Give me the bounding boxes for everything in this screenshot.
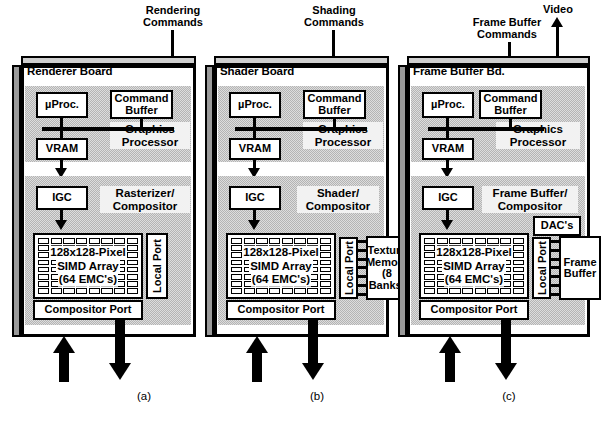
simd-cell	[282, 245, 293, 251]
simd-cell	[307, 260, 318, 266]
simd-cell	[500, 260, 511, 266]
simd-cell	[127, 238, 138, 244]
simd-cell	[513, 281, 524, 287]
panel-a-block-compositor-port: Compositor Port	[33, 300, 143, 320]
simd-cell	[256, 281, 267, 287]
simd-cell	[127, 267, 138, 273]
board-top-face	[407, 56, 590, 65]
simd-cell	[63, 238, 74, 244]
simd-cell	[231, 281, 242, 287]
simd-cell	[269, 238, 280, 244]
simd-cell	[449, 252, 460, 258]
simd-cell	[282, 252, 293, 258]
simd-cell	[500, 274, 511, 280]
board-side-face	[205, 65, 214, 337]
simd-cell	[500, 252, 511, 258]
simd-cell	[269, 288, 280, 294]
panel-c-block-uproc: µProc.	[422, 92, 474, 118]
panel-b-simd-arrowhead-icon	[248, 220, 260, 230]
simd-cell	[449, 238, 460, 244]
simd-cell	[500, 238, 511, 244]
simd-cell	[269, 260, 280, 266]
simd-cell	[449, 267, 460, 273]
simd-cell	[89, 238, 100, 244]
simd-cell	[513, 238, 524, 244]
simd-cell	[127, 245, 138, 251]
simd-cell	[282, 274, 293, 280]
simd-cell	[294, 260, 305, 266]
simd-cell	[424, 267, 435, 273]
panel-a-simd-arrowhead-icon	[55, 220, 67, 230]
simd-cell	[114, 274, 125, 280]
panel-b-block-uproc: µProc.	[229, 92, 281, 118]
simd-cell	[307, 274, 318, 280]
simd-cell	[76, 274, 87, 280]
simd-cell	[462, 288, 473, 294]
simd-cell	[424, 238, 435, 244]
simd-cell	[114, 288, 125, 294]
simd-cell	[256, 274, 267, 280]
simd-cell	[76, 288, 87, 294]
panel-c-video-label: Video	[528, 3, 588, 15]
simd-cell	[462, 252, 473, 258]
simd-cell	[294, 245, 305, 251]
panel-a-input-label: Rendering Commands	[127, 4, 219, 28]
panel-c-compositor-out-arrow-icon	[494, 318, 518, 382]
simd-cell	[437, 281, 448, 287]
simd-cell	[231, 252, 242, 258]
simd-cell	[513, 252, 524, 258]
simd-cell	[424, 274, 435, 280]
simd-cell	[475, 245, 486, 251]
simd-cell	[38, 274, 49, 280]
simd-cell	[462, 274, 473, 280]
simd-cell	[487, 245, 498, 251]
simd-cell	[500, 281, 511, 287]
simd-cell	[63, 260, 74, 266]
panel-b-caption: (b)	[297, 390, 337, 402]
panel-c-simd-arrowhead-icon	[441, 220, 453, 230]
simd-cell	[475, 267, 486, 273]
simd-cell	[231, 245, 242, 251]
simd-cell	[101, 260, 112, 266]
simd-cell	[51, 260, 62, 266]
simd-cell	[231, 238, 242, 244]
simd-cell	[63, 281, 74, 287]
panel-a-block-command-buffer: Command Buffer	[110, 90, 173, 119]
simd-cell	[76, 252, 87, 258]
simd-cell	[76, 245, 87, 251]
panel-a-board-title: Renderer Board	[27, 65, 113, 77]
simd-cell	[51, 288, 62, 294]
board-top-face	[214, 56, 389, 65]
board-top-face	[21, 56, 196, 65]
simd-cell	[294, 267, 305, 273]
simd-cell	[244, 260, 255, 266]
simd-cell	[462, 260, 473, 266]
panel-c-block-igc: IGC	[422, 186, 474, 210]
simd-cell	[51, 245, 62, 251]
simd-cell	[38, 288, 49, 294]
simd-cell	[307, 252, 318, 258]
simd-cell	[500, 267, 511, 273]
simd-cell	[244, 245, 255, 251]
simd-cell	[424, 260, 435, 266]
simd-cell	[89, 267, 100, 273]
simd-cell	[487, 267, 498, 273]
panel-c-block-command-buffer: Command Buffer	[479, 90, 542, 119]
simd-cell	[320, 260, 331, 266]
simd-cell	[231, 288, 242, 294]
simd-cell	[487, 238, 498, 244]
panel-c-compositor-in-arrow-icon	[438, 336, 462, 382]
simd-cell	[38, 252, 49, 258]
simd-cell	[487, 288, 498, 294]
simd-cell	[307, 238, 318, 244]
simd-cell	[487, 260, 498, 266]
panel-b-compositor-in-arrow-icon	[245, 336, 269, 382]
simd-cell	[256, 288, 267, 294]
simd-cell	[38, 260, 49, 266]
simd-cell	[127, 281, 138, 287]
simd-cell	[256, 245, 267, 251]
panel-b-local-port: Local Port	[339, 237, 358, 299]
simd-cell	[320, 245, 331, 251]
simd-cell	[256, 267, 267, 273]
board-side-face	[398, 65, 407, 337]
